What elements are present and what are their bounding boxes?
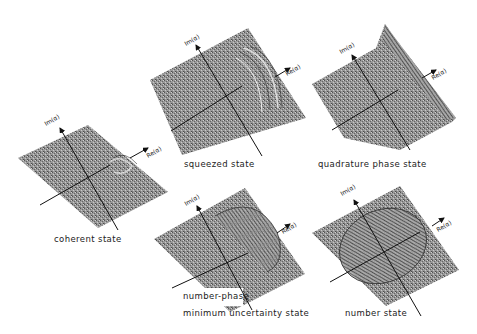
caption-squeezed-state: squeezed state bbox=[184, 159, 255, 169]
caption-number-phase-line1: number-phase bbox=[183, 291, 249, 301]
svg-text:Re(α): Re(α) bbox=[430, 67, 448, 81]
svg-text:Re(α): Re(α) bbox=[280, 221, 298, 235]
svg-text:Im(α): Im(α) bbox=[183, 193, 201, 207]
caption-coherent-state: coherent state bbox=[54, 234, 122, 244]
svg-text:Im(α): Im(α) bbox=[183, 33, 201, 47]
svg-text:Re(α): Re(α) bbox=[435, 219, 453, 233]
caption-number-state: number state bbox=[345, 308, 407, 318]
svg-text:Re(α): Re(α) bbox=[284, 63, 302, 77]
svg-text:Im(α): Im(α) bbox=[43, 113, 61, 127]
svg-text:Im(α): Im(α) bbox=[338, 41, 356, 55]
caption-quadrature-phase-state: quadrature phase state bbox=[318, 159, 427, 169]
caption-number-phase-line2: minimum uncertainty state bbox=[183, 308, 309, 318]
svg-text:Re(α): Re(α) bbox=[145, 145, 163, 159]
svg-text:Im(α): Im(α) bbox=[339, 183, 357, 197]
